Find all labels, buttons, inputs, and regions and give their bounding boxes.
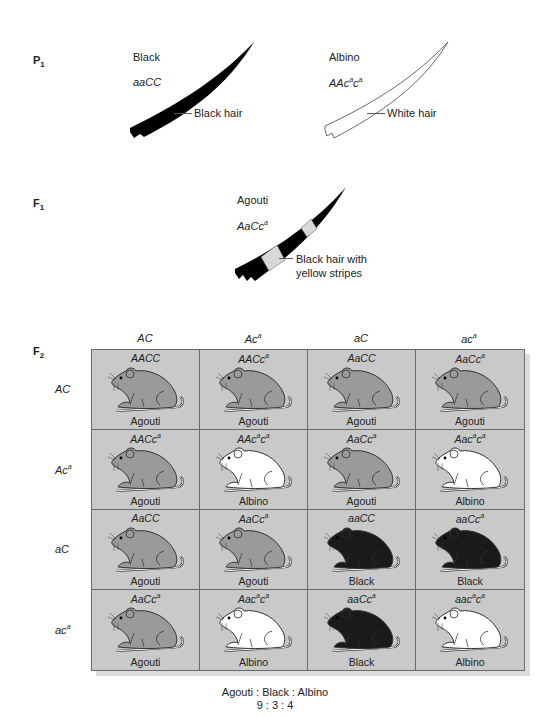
- punnett-cell-3-3: aacaca Albino: [416, 590, 524, 670]
- punnett-square: AACC AgoutiAACca AgoutiAaCC AgoutiAaCca: [91, 349, 525, 671]
- cell-phenotype: Albino: [200, 656, 307, 668]
- column-header-2: aC: [307, 332, 415, 344]
- row-header-2: aC: [55, 543, 85, 555]
- white-hair-label: White hair: [387, 107, 437, 119]
- mouse-icon: [432, 523, 510, 573]
- agouti-hair-label: Black hair withyellow stripes: [296, 252, 367, 280]
- cell-phenotype: Albino: [416, 495, 524, 507]
- mouse-icon: [324, 363, 402, 413]
- punnett-cell-3-0: AaCca Agouti: [92, 590, 200, 670]
- punnett-cell-2-3: aaCca Black: [416, 510, 524, 590]
- punnett-cell-1-0: AACca Agouti: [92, 430, 200, 510]
- punnett-cell-0-3: AaCca Agouti: [416, 350, 524, 430]
- mouse-icon: [324, 603, 402, 653]
- cell-phenotype: Agouti: [416, 415, 524, 427]
- mouse-icon: [432, 443, 510, 493]
- mouse-icon: [324, 523, 402, 573]
- mouse-icon: [108, 363, 186, 413]
- punnett-cell-0-0: AACC Agouti: [92, 350, 200, 430]
- cell-phenotype: Agouti: [200, 415, 307, 427]
- cell-phenotype: Agouti: [92, 575, 199, 587]
- p1-generation-label: P1: [33, 54, 45, 69]
- mouse-icon: [216, 603, 294, 653]
- black-hair-icon: [128, 40, 258, 140]
- mouse-icon: [108, 603, 186, 653]
- white-hair-leader-line: [367, 113, 385, 114]
- cell-phenotype: Albino: [416, 656, 524, 668]
- punnett-cell-0-1: AACca Agouti: [200, 350, 308, 430]
- cell-phenotype: Black: [416, 575, 524, 587]
- cell-phenotype: Agouti: [92, 656, 199, 668]
- mouse-icon: [216, 523, 294, 573]
- mouse-icon: [108, 443, 186, 493]
- mouse-icon: [108, 523, 186, 573]
- row-header-1: Aca: [55, 463, 85, 476]
- punnett-cell-2-0: AaCC Agouti: [92, 510, 200, 590]
- punnett-cell-3-2: aaCca Black: [308, 590, 416, 670]
- column-header-3: aca: [415, 332, 523, 345]
- mouse-icon: [432, 603, 510, 653]
- punnett-cell-2-1: AaCca Agouti: [200, 510, 308, 590]
- f1-generation-label: F1: [33, 197, 44, 212]
- mouse-icon: [324, 443, 402, 493]
- column-header-1: Aca: [199, 332, 307, 345]
- f2-generation-label: F2: [33, 345, 44, 360]
- cell-phenotype: Black: [308, 656, 415, 668]
- cell-phenotype: Agouti: [200, 575, 307, 587]
- punnett-cell-1-3: Aacaca Albino: [416, 430, 524, 510]
- punnett-cell-2-2: aaCC Black: [308, 510, 416, 590]
- punnett-cell-0-2: AaCC Agouti: [308, 350, 416, 430]
- cell-phenotype: Agouti: [308, 415, 415, 427]
- mouse-icon: [216, 363, 294, 413]
- agouti-hair-leader-line: [279, 258, 293, 259]
- row-header-0: AC: [55, 383, 85, 395]
- punnett-cell-1-1: AAcaca Albino: [200, 430, 308, 510]
- column-header-0: AC: [91, 332, 199, 344]
- mouse-icon: [216, 443, 294, 493]
- row-header-3: aca: [55, 623, 85, 636]
- black-hair-leader-line: [174, 113, 192, 114]
- punnett-cell-1-2: AaCca Agouti: [308, 430, 416, 510]
- phenotype-ratio-labels: Agouti : Black : Albino: [0, 686, 550, 699]
- cell-phenotype: Agouti: [92, 415, 199, 427]
- cell-phenotype: Agouti: [92, 495, 199, 507]
- punnett-cell-3-1: Aacaca Albino: [200, 590, 308, 670]
- cell-phenotype: Albino: [200, 495, 307, 507]
- white-hair-icon: [322, 40, 452, 140]
- phenotype-ratio-values: 9 : 3 : 4: [0, 699, 550, 712]
- mouse-icon: [432, 363, 510, 413]
- cell-phenotype: Agouti: [308, 495, 415, 507]
- black-hair-label: Black hair: [194, 107, 242, 119]
- cell-phenotype: Black: [308, 575, 415, 587]
